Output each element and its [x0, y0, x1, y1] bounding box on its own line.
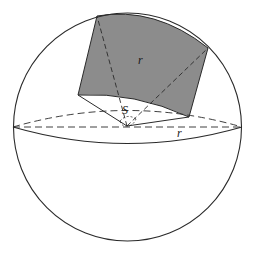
region-radius-label: r	[138, 53, 143, 67]
sphere-diagram: r S r	[0, 0, 255, 253]
solid-angle-arc	[120, 116, 136, 121]
shaded-region	[78, 14, 208, 117]
equator-radius-label: r	[177, 126, 182, 140]
equator-front	[13, 127, 242, 144]
center-to-right-corner	[127, 117, 189, 126]
solid-angle-label: S	[122, 103, 128, 117]
diagram-svg: r S r	[0, 0, 255, 253]
